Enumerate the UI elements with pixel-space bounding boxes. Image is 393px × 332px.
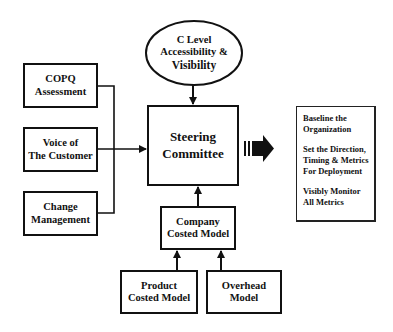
outcomes-panel: Baseline the Organization Set the Direct…: [296, 106, 376, 222]
copq-line-2: Assessment: [35, 86, 86, 98]
company-costed-model-box: Company Costed Model: [160, 206, 236, 250]
diagram-canvas: C Level Accessibility & Visibility COPQ …: [0, 0, 393, 332]
copq-assessment-box: COPQ Assessment: [23, 63, 98, 108]
change-line-1: Change: [43, 201, 77, 213]
overhead-line-1: Overhead: [222, 280, 266, 292]
company-line-1: Company: [176, 216, 220, 228]
block-arrow-icon: [244, 135, 274, 162]
voice-line-2: The Customer: [28, 150, 92, 162]
steering-line-2: Committee: [162, 146, 223, 162]
outcome-3-line-1: Visibly Monitor: [303, 186, 370, 197]
overhead-line-2: Model: [230, 292, 259, 304]
product-line-2: Costed Model: [128, 292, 190, 304]
outcome-2-line-2: Timing & Metrics: [303, 155, 370, 166]
change-management-box: Change Management: [23, 191, 98, 236]
outcome-baseline: Baseline the Organization: [303, 113, 370, 135]
outcome-monitor: Visibly Monitor All Metrics: [303, 186, 370, 208]
product-costed-model-box: Product Costed Model: [120, 270, 198, 314]
voice-line-1: Voice of: [43, 137, 78, 149]
c-level-label: C Level Accessibility & Visibility: [145, 26, 243, 80]
overhead-model-box: Overhead Model: [206, 270, 282, 314]
copq-line-1: COPQ: [45, 73, 75, 85]
outcome-1-line-1: Baseline the: [303, 113, 370, 124]
change-line-2: Management: [31, 214, 90, 226]
product-line-1: Product: [141, 280, 177, 292]
outcome-2-line-1: Set the Direction,: [303, 144, 370, 155]
c-level-line-3: Visibility: [172, 59, 216, 73]
voice-of-customer-box: Voice of The Customer: [23, 127, 98, 172]
outcome-direction: Set the Direction, Timing & Metrics For …: [303, 144, 370, 177]
c-level-line-1: C Level: [177, 34, 212, 47]
company-line-2: Costed Model: [167, 228, 229, 240]
outcome-3-line-2: All Metrics: [303, 197, 370, 208]
outcome-2-line-3: For Deployment: [303, 166, 370, 177]
outcome-1-line-2: Organization: [303, 124, 370, 135]
steering-line-1: Steering: [170, 129, 216, 145]
c-level-line-2: Accessibility &: [160, 46, 227, 59]
steering-committee-box: Steering Committee: [147, 105, 239, 186]
